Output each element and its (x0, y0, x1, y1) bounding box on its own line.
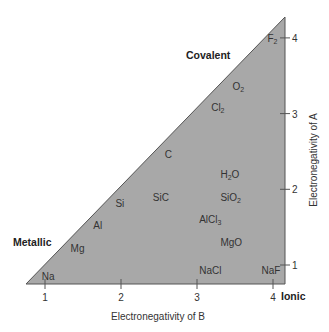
compound-label-al: Al (93, 220, 102, 231)
van-arkel-ketelaar-triangle-chart: 1234 1234 NaMgAlSiCCl2O2F2SiCH2OSiO2AlCl… (0, 0, 329, 332)
x-tick-label: 3 (194, 292, 200, 303)
compound-label-naf: NaF (261, 265, 280, 276)
x-tick-label: 1 (42, 292, 48, 303)
y-tick-label: 4 (292, 33, 298, 44)
compound-label-mg: Mg (71, 243, 85, 254)
bond-triangle-region (26, 17, 285, 284)
compound-label-c: C (165, 149, 172, 160)
metallic-label: Metallic (13, 236, 52, 248)
y-axis-label: Electronegativity of A (308, 113, 319, 207)
y-tick-label: 1 (292, 260, 298, 271)
covalent-label: Covalent (186, 49, 231, 61)
y-tick-label: 2 (292, 184, 298, 195)
x-axis-label: Electronegativity of B (111, 311, 205, 322)
x-tick-label: 2 (118, 292, 124, 303)
compound-label-mgo: MgO (220, 237, 242, 248)
compound-label-nacl: NaCl (199, 265, 221, 276)
x-tick-label: 4 (270, 292, 276, 303)
ionic-label: Ionic (281, 290, 306, 302)
compound-label-na: Na (42, 271, 55, 282)
compound-label-si: Si (115, 198, 124, 209)
compound-label-sic: SiC (153, 192, 169, 203)
y-tick-label: 3 (292, 109, 298, 120)
